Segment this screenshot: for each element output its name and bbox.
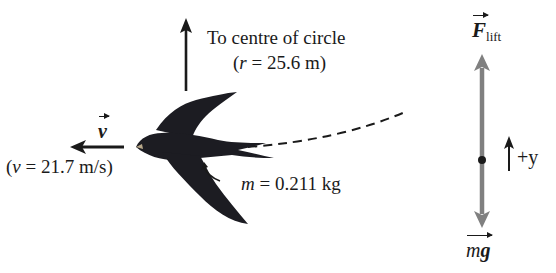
radius-label: (r = 25.6 m) (233, 53, 326, 72)
velocity-value-label: (v = 21.7 m/s) (6, 157, 113, 176)
velocity-symbol: v (98, 121, 107, 141)
flight-path-dashed (248, 112, 405, 147)
lift-force-label: Flift (472, 20, 501, 43)
weight-m: m (466, 239, 480, 261)
lift-symbol: F (472, 20, 486, 41)
weight-force-label: mg (466, 240, 490, 260)
centre-label-line1: To centre of circle (207, 28, 345, 47)
velocity-var: v (12, 156, 20, 177)
free-body-diagram (474, 54, 514, 228)
weight-g: g (480, 239, 490, 261)
mass-value: = 0.211 kg (255, 173, 341, 194)
velocity-arrow (70, 140, 124, 154)
axis-label: +y (517, 146, 538, 168)
lift-subscript: lift (486, 29, 501, 44)
radius-var: r (239, 52, 246, 73)
velocity-value: = 21.7 m/s) (21, 156, 113, 177)
weight-symbol: mg (466, 240, 490, 260)
velocity-vector-label: v (98, 121, 107, 141)
mass-label: m = 0.211 kg (241, 174, 341, 193)
positive-y-label: +y (517, 147, 538, 167)
mass-var: m (241, 173, 255, 194)
radius-value: = 25.6 m) (247, 52, 326, 73)
centre-direction-arrow (180, 18, 192, 91)
swallow-bird-icon (136, 92, 274, 224)
